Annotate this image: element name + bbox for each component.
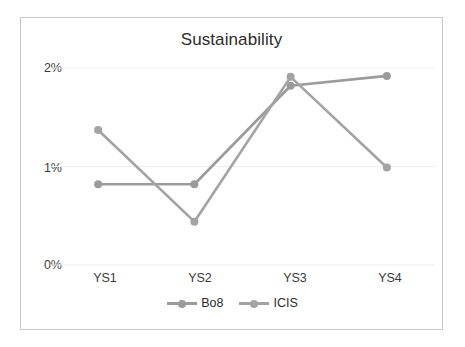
y-axis-tick-label-2: 2% [22,61,62,75]
legend-item-icis[interactable]: ICIS [239,296,297,310]
legend-dot-bo8-icon [178,300,186,308]
x-axis-tick-label-ys3: YS3 [265,271,325,285]
y-axis-tick-label-1: 1% [22,161,62,175]
legend-item-bo8[interactable]: Bo8 [167,296,223,310]
x-axis-tick-label-ys1: YS1 [75,271,135,285]
chart-title: Sustainability [21,30,442,50]
legend-marker-icis-icon [239,298,269,308]
chart-legend: Bo8 ICIS [0,296,465,310]
y-axis-tick-label-0: 0% [22,258,62,272]
x-axis-tick-label-ys4: YS4 [360,271,420,285]
legend-marker-bo8-icon [167,298,197,308]
legend-label-bo8: Bo8 [201,296,223,310]
x-axis-tick-label-ys2: YS2 [170,271,230,285]
legend-label-icis: ICIS [273,296,297,310]
legend-dot-icis-icon [250,300,258,308]
